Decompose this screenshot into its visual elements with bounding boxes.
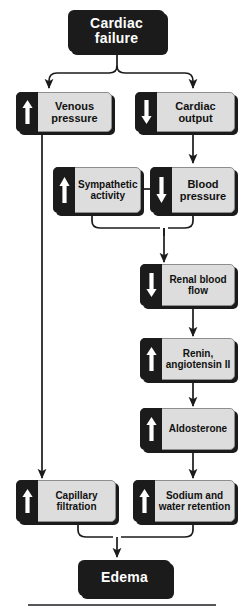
node-blood-pressure-line2: pressure <box>180 190 226 202</box>
node-capillary-filtration-label: Capillary filtration <box>38 481 115 521</box>
down-arrow-icon <box>150 167 172 213</box>
up-arrow-icon <box>16 92 38 132</box>
edge-cardiac-failure-to-venous-pressure <box>49 66 117 88</box>
node-venous-pressure-line1: Venous <box>55 100 94 112</box>
node-renal-blood-flow[interactable]: Renal blood flow <box>140 264 235 306</box>
node-renin-angiotensin-line2: angiotensin II <box>166 359 230 370</box>
node-edema-label: Edema <box>101 570 148 585</box>
flowchart-canvas: Cardiac failure Venous pressure Cardiac … <box>0 0 244 609</box>
up-arrow-icon <box>16 480 38 522</box>
node-sodium-water-retention-label: Sodium and water retention <box>155 481 234 521</box>
node-aldosterone[interactable]: Aldosterone <box>140 408 235 450</box>
node-capillary-filtration-line1: Capillary <box>55 490 97 501</box>
up-arrow-icon <box>133 480 155 522</box>
node-venous-pressure-label: Venous pressure <box>38 93 111 131</box>
node-renal-blood-flow-label: Renal blood flow <box>162 265 234 305</box>
node-cardiac-output[interactable]: Cardiac output <box>135 92 235 132</box>
node-sympathetic-activity-line2: activity <box>91 190 125 201</box>
edge-blood-pressure-merge <box>168 213 193 228</box>
node-sodium-water-retention[interactable]: Sodium and water retention <box>133 480 235 522</box>
node-venous-pressure[interactable]: Venous pressure <box>16 92 112 132</box>
footer-rule <box>28 604 216 606</box>
node-sympathetic-activity-label: Sympathetic activity <box>75 168 140 212</box>
edge-sympathetic-activity-merge <box>92 213 160 228</box>
node-renin-angiotensin[interactable]: Renin, angiotensin II <box>140 338 235 380</box>
node-cardiac-output-line1: Cardiac <box>175 100 215 112</box>
down-arrow-icon <box>140 264 162 306</box>
up-arrow-icon <box>140 338 162 380</box>
node-blood-pressure-line1: Blood <box>187 178 218 190</box>
up-arrow-icon <box>53 167 75 213</box>
node-blood-pressure[interactable]: Blood pressure <box>150 167 235 213</box>
node-renal-blood-flow-line1: Renal blood <box>169 274 226 285</box>
edge-capillary-filtration-merge <box>78 522 113 537</box>
node-sodium-water-retention-line2: water retention <box>159 501 231 512</box>
node-blood-pressure-label: Blood pressure <box>172 168 234 212</box>
node-renal-blood-flow-line2: flow <box>188 285 208 296</box>
node-cardiac-output-line2: output <box>178 112 212 124</box>
node-cardiac-failure-line1: Cardiac <box>90 15 143 31</box>
node-edema[interactable]: Edema <box>78 560 171 596</box>
node-cardiac-failure-line2: failure <box>95 30 138 46</box>
node-cardiac-failure[interactable]: Cardiac failure <box>68 10 165 52</box>
node-aldosterone-label: Aldosterone <box>162 409 234 449</box>
up-arrow-icon <box>140 408 162 450</box>
down-arrow-icon <box>135 92 157 132</box>
node-cardiac-output-label: Cardiac output <box>157 93 234 131</box>
node-aldosterone-line1: Aldosterone <box>169 423 227 434</box>
node-sympathetic-activity-line1: Sympathetic <box>78 179 137 190</box>
node-capillary-filtration[interactable]: Capillary filtration <box>16 480 116 522</box>
node-sodium-water-retention-line1: Sodium and <box>166 490 223 501</box>
node-sympathetic-activity[interactable]: Sympathetic activity <box>53 167 141 213</box>
node-renin-angiotensin-label: Renin, angiotensin II <box>162 339 234 379</box>
node-cardiac-failure-label: Cardiac failure <box>90 16 143 46</box>
node-capillary-filtration-line2: filtration <box>57 501 97 512</box>
node-edema-line1: Edema <box>101 569 148 585</box>
node-venous-pressure-line2: pressure <box>51 112 97 124</box>
edge-cardiac-failure-to-cardiac-output <box>117 66 193 88</box>
edge-sodium-water-merge <box>121 522 193 537</box>
node-renin-angiotensin-line1: Renin, <box>183 348 214 359</box>
